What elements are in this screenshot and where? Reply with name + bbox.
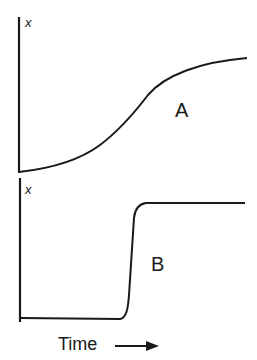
bottom-axis-label: x [25,182,32,197]
top-axis-label: x [25,15,32,30]
time-axis-label: Time [58,334,97,355]
curve-b-label: B [151,253,164,276]
curve-a [19,58,247,172]
curve-b [20,203,245,319]
diagram-canvas [0,0,257,360]
time-arrow-head-icon [146,341,159,351]
curve-a-label: A [175,99,188,122]
